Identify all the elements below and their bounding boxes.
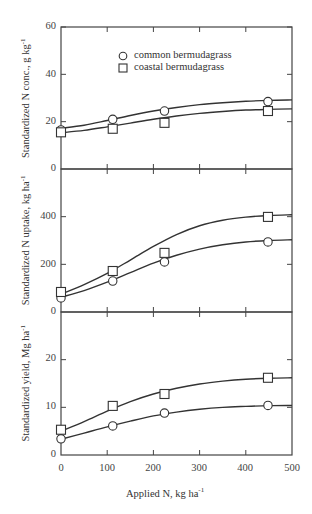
x-tick-label: 200 xyxy=(140,462,166,473)
data-point-square xyxy=(263,373,272,382)
data-point-circle xyxy=(57,435,65,443)
data-point-square xyxy=(160,389,169,398)
fit-curve-coastal xyxy=(61,109,292,133)
fit-curve-common xyxy=(61,405,292,439)
y-tick-label: 200 xyxy=(36,258,56,269)
data-point-square xyxy=(263,107,272,116)
data-point-circle xyxy=(264,97,272,105)
data-point-circle xyxy=(109,422,117,430)
data-point-square xyxy=(57,425,66,434)
data-point-square xyxy=(160,118,169,127)
x-tick-label: 500 xyxy=(279,462,305,473)
data-point-circle xyxy=(264,401,272,409)
y-axis-label-n-uptake: Standardized N uptake, kg ha-1 xyxy=(19,160,32,320)
x-axis-label: Applied N, kg ha-1 xyxy=(126,486,204,499)
y-tick-label: 0 xyxy=(40,448,56,459)
legend-square-icon xyxy=(119,64,127,72)
x-tick-label: 0 xyxy=(51,462,71,473)
y-axis-label-n-conc: Standardized N conc., g kg-1 xyxy=(19,25,32,171)
fit-curve-coastal xyxy=(61,378,292,431)
y-tick-label: 10 xyxy=(40,400,56,411)
y-tick-label: 40 xyxy=(40,68,56,79)
plot-frame xyxy=(61,312,292,455)
y-tick-label: 400 xyxy=(36,210,56,221)
fit-curve-common xyxy=(61,100,292,128)
y-tick-label: 0 xyxy=(40,162,56,173)
data-point-circle xyxy=(160,409,168,417)
y-tick-label: 20 xyxy=(40,115,56,126)
y-tick-label: 20 xyxy=(40,352,56,363)
x-tick-label: 400 xyxy=(232,462,258,473)
data-point-circle xyxy=(160,107,168,115)
legend-label-common: common bermudagrass xyxy=(134,49,232,60)
data-point-square xyxy=(57,128,66,137)
data-point-circle xyxy=(264,238,272,246)
data-point-square xyxy=(160,248,169,257)
data-point-circle xyxy=(109,277,117,285)
y-tick-label: 0 xyxy=(36,305,56,316)
data-point-square xyxy=(108,267,117,276)
data-point-square xyxy=(108,124,117,133)
data-point-circle xyxy=(160,258,168,266)
panels xyxy=(57,27,293,455)
data-point-square xyxy=(263,212,272,221)
data-point-square xyxy=(57,287,66,296)
legend-circle-icon xyxy=(119,52,127,60)
legend-label-coastal: coastal bermudagrass xyxy=(134,61,224,72)
data-point-square xyxy=(108,401,117,410)
y-tick-label: 60 xyxy=(40,20,56,31)
data-point-circle xyxy=(109,115,117,123)
x-tick-label: 100 xyxy=(94,462,120,473)
fit-curve-coastal xyxy=(61,215,292,294)
fit-curve-common xyxy=(61,240,292,297)
y-axis-label-yield: Standardized yield, Mg ha-1 xyxy=(19,310,32,456)
x-tick-label: 300 xyxy=(186,462,212,473)
